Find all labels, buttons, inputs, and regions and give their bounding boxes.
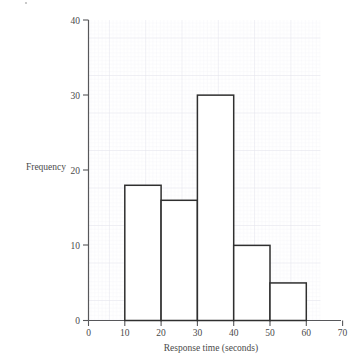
x-tick-label-40: 40 xyxy=(229,328,239,338)
y-tick-label-20: 20 xyxy=(71,166,81,176)
histogram-bar-30-40 xyxy=(197,95,233,320)
y-tick-label-40: 40 xyxy=(71,16,81,26)
y-tick-label-0: 0 xyxy=(75,316,80,326)
y-tick-label-10: 10 xyxy=(71,241,81,251)
y-axis-tick-labels: 40 30 20 10 0 xyxy=(71,16,81,327)
x-tick-label-30: 30 xyxy=(193,328,203,338)
x-tick-label-20: 20 xyxy=(156,328,166,338)
histogram-bar-10-20 xyxy=(125,185,161,320)
x-axis-tick-labels: 0 10 20 30 40 50 60 70 xyxy=(86,328,347,338)
y-axis-ticks xyxy=(83,20,89,321)
histogram-bar-20-30 xyxy=(161,200,197,320)
x-axis-ticks xyxy=(89,321,343,327)
x-tick-label-70: 70 xyxy=(338,328,348,338)
scan-artifact-speck xyxy=(25,2,27,4)
x-tick-label-60: 60 xyxy=(302,328,312,338)
y-axis-title: Frequency xyxy=(26,162,66,172)
histogram-bar-50-60 xyxy=(270,283,306,321)
x-axis-title: Response time (seconds) xyxy=(164,343,258,354)
y-tick-label-30: 30 xyxy=(71,91,81,101)
histogram-chart: 40 30 20 10 0 0 10 20 30 40 50 60 70 xyxy=(0,0,357,363)
chart-canvas: 40 30 20 10 0 0 10 20 30 40 50 60 70 xyxy=(0,0,357,363)
x-tick-label-50: 50 xyxy=(265,328,275,338)
x-tick-label-10: 10 xyxy=(120,328,130,338)
x-tick-label-0: 0 xyxy=(86,328,91,338)
histogram-bar-40-50 xyxy=(234,245,270,320)
